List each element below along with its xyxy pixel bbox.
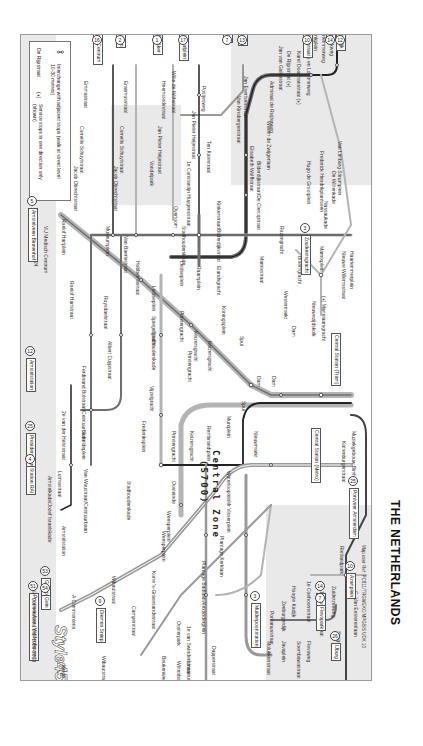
station-label: Ferdinand Bolstraat/Ceintuurbaan [81, 366, 86, 441]
station-label: Heemstedestraat [161, 81, 166, 119]
station-label: Rembrandtplein [206, 426, 211, 461]
copyright-text: © Commenteris Ltd. 1989-2008 [31, 590, 37, 662]
station-label: Raamplein [196, 266, 201, 290]
station-label: Soembawastraat [296, 641, 301, 679]
line-number-badge: 26 [330, 631, 340, 641]
terminal-station-box: Amstelveen Binnenhof [28, 208, 38, 262]
terminal-station-box: Central Station (Tram) [331, 333, 341, 386]
station-label: Erasmusstraat [123, 81, 128, 113]
station-label: Haarlemmerplein [349, 251, 354, 289]
station-label: Roelof Hartplein [61, 219, 66, 255]
station-label: Rietlandpark [339, 546, 344, 574]
station-label: Leidseplein [179, 261, 184, 286]
map-reference: Map user Ref: PC811/TRGWEKC/MPGB/S UDK 1… [361, 545, 366, 648]
station-label: Javaplein [281, 641, 286, 662]
line-number-badge: 10 [302, 35, 312, 45]
station-label: Marnixplein [319, 246, 324, 272]
station-label: Willem de Zwijgerlaan [266, 121, 271, 170]
station-label: Prinsengracht [171, 431, 176, 462]
terminal-station-box: Diemen Sniep [96, 608, 106, 643]
station-label: Van Baerlestraat [123, 236, 128, 273]
station-label: Wittenbachstraat [176, 661, 181, 681]
station-label: Museumplein [105, 226, 110, 256]
station-label: Elisabeth Wolffstraat [249, 146, 254, 192]
line-number-badge: 3 [300, 223, 310, 233]
station-label: Spiegelgracht [151, 316, 156, 347]
station-label: Spui [239, 336, 244, 346]
station-label: Westermarkt [283, 291, 288, 319]
station-label: Korte 's-Gravesandestraat [151, 571, 156, 629]
station-label: Vijzelgracht [149, 386, 154, 412]
station-label: Van Kinsbergenstraat [236, 96, 241, 144]
legend-one-direction-text: Service stops in one direction only (sho… [32, 104, 44, 194]
station-label: Hoogte Kadijk [291, 586, 296, 617]
station-label: Keizersgracht [207, 341, 212, 372]
map-legend: ⚯ Interchange with adjacent stops (walk … [29, 41, 71, 201]
station-label: Stadhouderskade [181, 226, 186, 265]
station-label: Cornelis Schuytstraat [119, 126, 124, 174]
station-label: Jan Evertsenstraat [243, 76, 248, 118]
station-label: VU Medisch Centrum [43, 226, 48, 274]
line-number-badge: 54 [40, 583, 50, 593]
country-title: THE NETHERLANDS [388, 500, 402, 626]
interchange-icon: ⚯ [56, 48, 62, 57]
station-label: Bilderdijkstraat/De Clercqstraat [256, 161, 261, 230]
station-label: Dam [291, 326, 296, 337]
line-number-badge: 4 [25, 454, 35, 464]
terminal-station-box: Station RAI [26, 466, 36, 495]
line-number-badge: 1 [152, 35, 162, 45]
station-label: Overtoom [173, 206, 178, 228]
legend-interchange-text: Interchange with adjacent stops (walk at… [48, 64, 62, 184]
station-label: Marnixstraat [259, 256, 264, 284]
terminal-station-box: Pontveer Amsterdam [349, 488, 359, 539]
transit-map: ⚯ Interchange with adjacent stops (walk … [20, 34, 372, 681]
line-number-badge: 7 [315, 593, 325, 603]
station-label: Lutmastraat [57, 471, 62, 497]
station-label: Willinkplein [313, 34, 318, 51]
station-label: Jan van Galenstraat [278, 46, 283, 91]
station-label: Molukkenstraat [266, 641, 271, 675]
station-label: Nieuwmarkt [253, 431, 258, 457]
station-label: Mr Visserplein [226, 501, 231, 533]
station-label: Witte de Withstraat [171, 71, 176, 113]
station-label: Dam [271, 376, 276, 387]
terminal-station-box: Zoutkeetsgracht [301, 235, 311, 275]
line-number-badge: 14 [315, 581, 325, 591]
station-label: Dam [256, 376, 261, 387]
station-label: Stadhouderskade [126, 481, 131, 520]
station-label: Prinsengracht [187, 351, 192, 382]
station-label: Spui [241, 401, 246, 411]
station-label: Ruysdaelstraat [103, 296, 108, 329]
zone-label: Central Zone [211, 450, 221, 539]
station-label: Jacob Obrechtstraat [73, 166, 78, 211]
station-label: Oosterpark [176, 621, 181, 646]
terminal-station-box: IJburg [331, 643, 341, 661]
terminal-station-box: Gein [41, 595, 51, 610]
station-label: Amstelkade/Jozef Israelskade [47, 476, 52, 542]
station-label: Muntplein [226, 416, 231, 438]
station-label: Jacob Obrechtstraat [113, 166, 118, 211]
legend-example-station: De Rijpstraat [36, 48, 42, 77]
station-label: 1e Coehoornstraat [306, 581, 311, 622]
station-label: Koningsplein [221, 306, 226, 335]
station-label: Nassaukade [323, 201, 328, 229]
terminal-station-box: Amstelstation [26, 358, 36, 392]
line-number-badge: 17 [178, 35, 188, 45]
station-label: Plantage Badlaan [201, 561, 206, 600]
line-number-badge: 3 [250, 591, 260, 601]
station-label: Zeeburgerdijk [281, 601, 286, 632]
station-label: Postjesweg [201, 86, 206, 112]
station-label: Weesperplein [166, 511, 171, 541]
station-label: Alexanderplein [201, 601, 206, 634]
station-label: 1e Constantijn Huygensstraat [186, 161, 191, 227]
terminal-station-box: Central Station (Metro) [311, 428, 321, 483]
station-label: Wibautstraat [101, 656, 106, 681]
line-number-badge: 16 [92, 35, 102, 45]
station-label: Emmastraat [83, 81, 88, 108]
zone-code-label: (5700) [199, 460, 209, 505]
line-number-badge: 53 [40, 566, 50, 576]
station-label: Prinsengracht [179, 311, 184, 342]
station-label: Dapperstraat [211, 646, 216, 675]
line-number-badge: 12 [335, 35, 345, 45]
station-label: Pontanusstraat [269, 611, 274, 645]
